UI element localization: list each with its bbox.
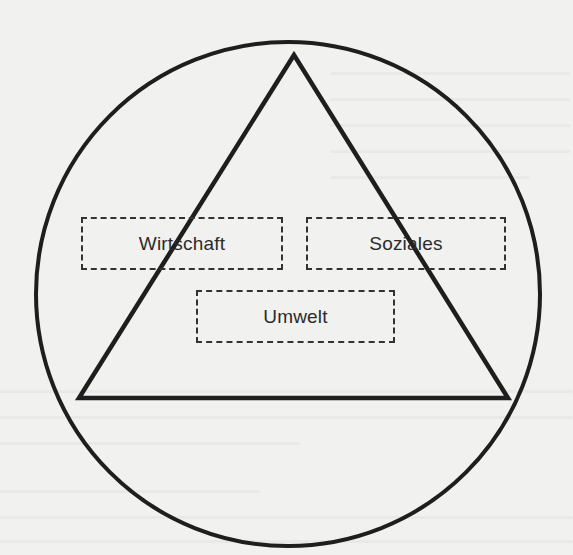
label-soziales: Soziales xyxy=(369,233,442,255)
label-umwelt: Umwelt xyxy=(263,306,328,328)
sustainability-diagram xyxy=(0,0,573,555)
label-box-soziales: Soziales xyxy=(306,217,506,270)
label-wirtschaft: Wirtschaft xyxy=(139,233,225,255)
label-box-umwelt: Umwelt xyxy=(196,290,395,343)
label-box-wirtschaft: Wirtschaft xyxy=(81,217,283,270)
